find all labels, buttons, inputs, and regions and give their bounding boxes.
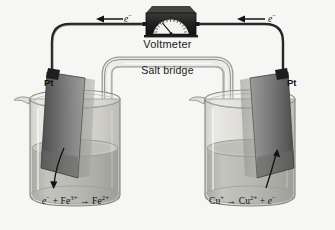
- electron-charge-left: −: [128, 12, 132, 19]
- eq-right-reactant: Cu: [209, 196, 220, 206]
- electron-charge-right: −: [272, 12, 276, 19]
- eq-left-electron-charge: −: [46, 194, 50, 201]
- reaction-equation-right: Cu+ → Cu2+ + e−: [209, 194, 276, 206]
- eq-left-plus: +: [53, 196, 58, 206]
- voltmeter[interactable]: [143, 6, 200, 37]
- eq-left-product: Fe: [92, 196, 102, 206]
- electron-label-right: e−: [268, 12, 276, 24]
- electrode-right-label: Pt: [287, 77, 297, 88]
- galvanic-cell-figure: Voltmeter Salt bridge Pt Pt e− e− e− + F…: [0, 0, 335, 230]
- electron-label-left: e−: [124, 12, 132, 24]
- eq-right-arrow: →: [227, 196, 237, 206]
- electron-flow-arrow-left: [96, 16, 123, 23]
- eq-right-product-charge: 2+: [250, 194, 257, 201]
- reaction-equation-left: e− + Fe3+ → Fe2+: [42, 194, 109, 206]
- eq-left-reactant: Fe: [61, 196, 71, 206]
- eq-right-product: Cu: [239, 196, 250, 206]
- eq-right-electron-charge: −: [272, 194, 276, 201]
- eq-left-reactant-charge: 3+: [70, 194, 77, 201]
- electrode-left-label: Pt: [44, 77, 54, 88]
- eq-left-product-charge: 2+: [102, 194, 109, 201]
- electrode-right[interactable]: [240, 68, 294, 188]
- salt-bridge-label: Salt bridge: [0, 64, 335, 76]
- electron-flow-arrow-right: [237, 16, 265, 23]
- eq-right-plus: +: [260, 196, 265, 206]
- eq-left-arrow: →: [80, 196, 90, 206]
- eq-right-reactant-charge: +: [220, 194, 224, 201]
- voltmeter-label: Voltmeter: [0, 38, 335, 50]
